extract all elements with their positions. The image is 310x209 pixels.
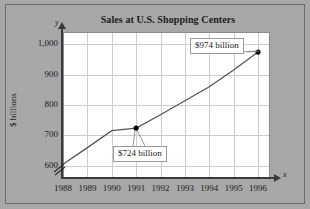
gridline-horizontal	[64, 135, 269, 136]
x-axis-arrow-icon	[274, 174, 281, 182]
gridline-horizontal	[64, 105, 269, 106]
y-tick-label: 800	[28, 99, 58, 109]
callout-974-billion: $974 billion	[190, 38, 244, 54]
y-axis-title: $ billions	[8, 80, 18, 140]
y-axis-arrow-icon	[58, 22, 66, 29]
x-axis-tick-labels: 198819891990199119921993199419951996	[0, 183, 310, 197]
gridline-horizontal	[64, 166, 269, 167]
gridline-vertical	[63, 33, 64, 177]
x-axis-line	[62, 177, 275, 179]
gridline-vertical	[87, 33, 88, 177]
y-tick-label: 600	[28, 160, 58, 170]
y-tick-label: 700	[28, 129, 58, 139]
y-tick-label: 1,000	[28, 38, 58, 48]
chart-title: Sales at U.S. Shopping Centers	[63, 14, 273, 25]
gridline-vertical	[185, 33, 186, 177]
x-axis-symbol: x	[283, 170, 287, 179]
gridline-vertical	[258, 33, 259, 177]
x-tick-label: 1996	[243, 183, 273, 193]
gridline-vertical	[234, 33, 235, 177]
gridline-vertical	[209, 33, 210, 177]
y-axis-tick-labels: 6007008009001,000	[26, 0, 58, 209]
y-tick-label: 900	[28, 69, 58, 79]
callout-724-billion: $724 billion	[113, 146, 167, 162]
gridline-horizontal	[64, 75, 269, 76]
chart-figure: Sales at U.S. Shopping Centers y x 60070…	[0, 0, 310, 209]
